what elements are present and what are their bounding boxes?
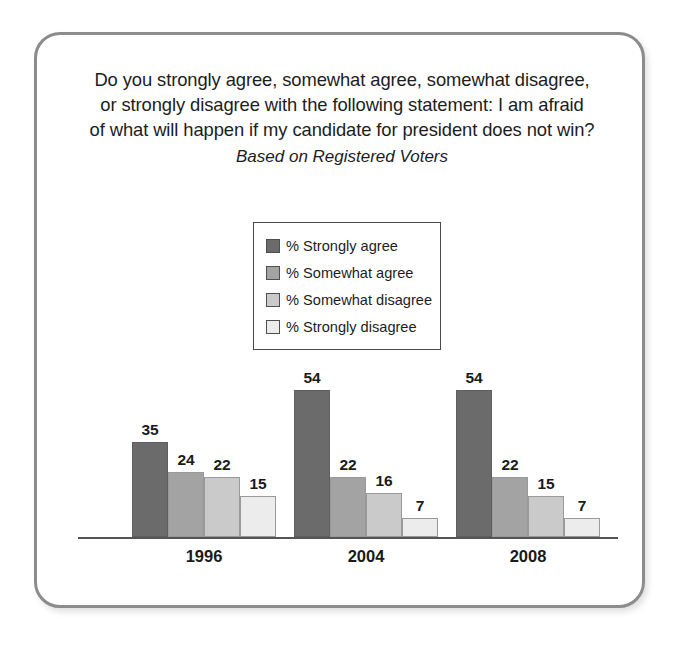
bar-value-label: 7 <box>560 497 604 515</box>
bar <box>492 477 528 537</box>
bar-value-label: 35 <box>128 421 172 439</box>
legend-swatch-icon <box>266 320 280 334</box>
legend-swatch-icon <box>266 239 280 253</box>
legend-item: % Strongly disagree <box>266 313 430 340</box>
chart-title: Do you strongly agree, somewhat agree, s… <box>59 67 625 169</box>
legend-item: % Somewhat disagree <box>266 286 430 313</box>
legend-item: % Strongly agree <box>266 232 430 259</box>
chart-subtitle: Based on Registered Voters <box>59 144 625 169</box>
bar-group: 54221572008 <box>456 387 600 537</box>
figure-frame: Do you strongly agree, somewhat agree, s… <box>34 32 645 608</box>
bar-value-label: 15 <box>524 475 568 493</box>
legend-item-label: % Somewhat disagree <box>286 292 432 308</box>
bar <box>528 496 564 537</box>
bar <box>204 477 240 537</box>
bar <box>402 518 438 537</box>
bar <box>564 518 600 537</box>
bar-value-label: 15 <box>236 475 280 493</box>
bar <box>294 390 330 537</box>
legend-item-label: % Somewhat agree <box>286 265 413 281</box>
legend-swatch-icon <box>266 266 280 280</box>
bar <box>366 493 402 537</box>
title-line-2: or strongly disagree with the following … <box>59 92 625 117</box>
chart-legend: % Strongly agree% Somewhat agree% Somewh… <box>253 222 441 350</box>
bar <box>168 472 204 537</box>
bar-value-label: 16 <box>362 472 406 490</box>
x-axis-tick-label: 2004 <box>286 547 446 566</box>
bar <box>240 496 276 537</box>
x-axis-tick-label: 2008 <box>448 547 608 566</box>
bar-group: 54221672004 <box>294 387 438 537</box>
x-axis-tick-label: 1996 <box>124 547 284 566</box>
legend-item: % Somewhat agree <box>266 259 430 286</box>
chart-figure: Do you strongly agree, somewhat agree, s… <box>0 0 686 652</box>
legend-item-label: % Strongly disagree <box>286 319 417 335</box>
title-line-3: of what will happen if my candidate for … <box>59 117 625 142</box>
bar-value-label: 54 <box>290 369 334 387</box>
bar <box>132 442 168 537</box>
bar-value-label: 22 <box>488 456 532 474</box>
bar <box>330 477 366 537</box>
legend-swatch-icon <box>266 293 280 307</box>
bar-value-label: 7 <box>398 497 442 515</box>
title-line-1: Do you strongly agree, somewhat agree, s… <box>59 67 625 92</box>
bar-value-label: 54 <box>452 369 496 387</box>
bar <box>456 390 492 537</box>
legend-item-label: % Strongly agree <box>286 238 398 254</box>
x-axis-line <box>78 537 618 539</box>
bar-value-label: 22 <box>200 456 244 474</box>
bar-group: 352422151996 <box>132 387 276 537</box>
plot-area: 3524221519965422167200454221572008 <box>78 365 618 539</box>
